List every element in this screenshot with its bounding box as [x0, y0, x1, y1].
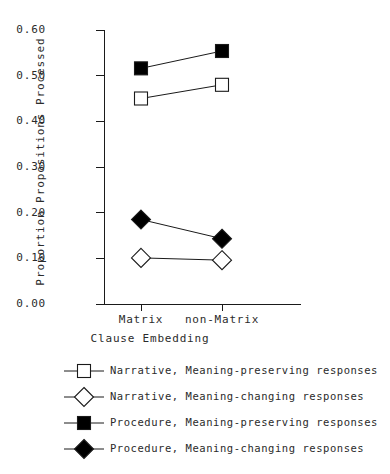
series-group: [135, 45, 229, 75]
legend-item[interactable]: Procedure, Meaning-changing responses: [62, 436, 390, 462]
chart-container: 0.000.100.200.300.400.500.60 Matrixnon-M…: [0, 0, 390, 474]
filled-diamond-marker: [75, 440, 94, 459]
series-line: [141, 220, 222, 239]
filled-square-marker: [135, 62, 148, 75]
legend-item[interactable]: Procedure, Meaning-preserving responses: [62, 410, 390, 436]
filled-square-icon: [62, 410, 106, 436]
open-square-icon: [62, 358, 106, 384]
filled-square-marker: [78, 417, 91, 430]
open-diamond-icon: [62, 384, 106, 410]
open-diamond-marker: [213, 251, 232, 270]
legend-item[interactable]: Narrative, Meaning-preserving responses: [62, 358, 390, 384]
series-group: [132, 248, 232, 269]
series-line: [141, 258, 222, 260]
y-tick-mark: [96, 212, 104, 213]
open-square-marker: [135, 92, 148, 105]
legend-label: Narrative, Meaning-changing responses: [110, 390, 364, 402]
y-tick-mark: [96, 167, 104, 168]
x-tick-label: non-Matrix: [185, 313, 259, 326]
chart-legend: Narrative, Meaning-preserving responsesN…: [62, 358, 390, 462]
filled-square-marker: [216, 45, 229, 58]
legend-symbol: [62, 384, 106, 410]
y-tick-mark: [96, 30, 104, 31]
y-tick-mark: [96, 75, 104, 76]
open-square-marker: [216, 78, 229, 91]
legend-symbol: [62, 358, 106, 384]
legend-symbol: [62, 436, 106, 462]
x-tick-mark: [141, 304, 142, 311]
x-tick-label: Matrix: [119, 313, 164, 326]
y-tick-mark: [96, 304, 104, 305]
legend-item[interactable]: Narrative, Meaning-changing responses: [62, 384, 390, 410]
series-group: [132, 210, 232, 248]
legend-symbol: [62, 410, 106, 436]
x-axis-line: [104, 304, 301, 305]
x-axis-title: Clause Embedding: [0, 332, 300, 345]
series-line: [141, 51, 222, 68]
legend-label: Procedure, Meaning-preserving responses: [110, 416, 378, 428]
open-diamond-marker: [132, 248, 151, 267]
legend-label: Narrative, Meaning-preserving responses: [110, 364, 378, 376]
open-square-marker: [78, 365, 91, 378]
filled-diamond-icon: [62, 436, 106, 462]
y-axis-title: Proportion Propositions Processed: [34, 12, 47, 312]
series-group: [135, 78, 229, 105]
legend-label: Procedure, Meaning-changing responses: [110, 442, 364, 454]
y-tick-mark: [96, 121, 104, 122]
x-tick-mark: [222, 304, 223, 311]
y-axis-line: [104, 30, 105, 305]
filled-diamond-marker: [213, 229, 232, 248]
filled-diamond-marker: [132, 210, 151, 229]
open-diamond-marker: [75, 388, 94, 407]
y-tick-mark: [96, 258, 104, 259]
series-line: [141, 85, 222, 99]
